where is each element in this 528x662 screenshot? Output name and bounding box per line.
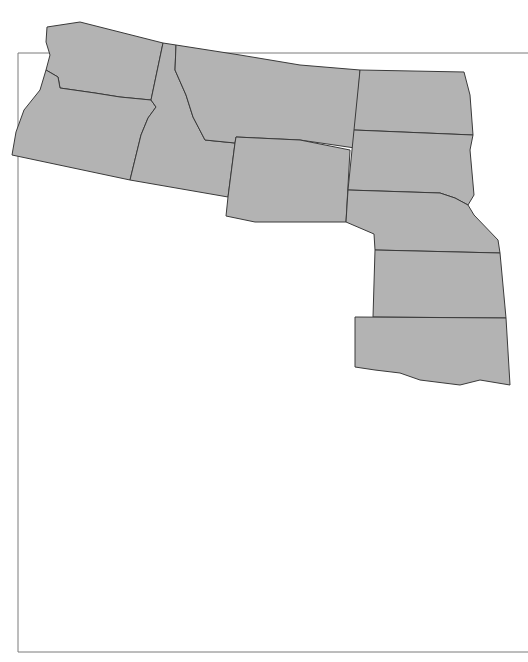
map-container: points="355,328 355,367 375,370 400,373 …	[0, 0, 528, 662]
state-montana[interactable]	[175, 45, 360, 148]
state-kansas[interactable]	[373, 250, 506, 318]
state-wyoming[interactable]	[226, 137, 350, 222]
state-oklahoma[interactable]	[355, 317, 510, 385]
map-svg: points="355,328 355,367 375,370 400,373 …	[0, 0, 528, 662]
state-nebraska[interactable]	[346, 190, 500, 253]
state-north-dakota[interactable]	[354, 70, 473, 135]
